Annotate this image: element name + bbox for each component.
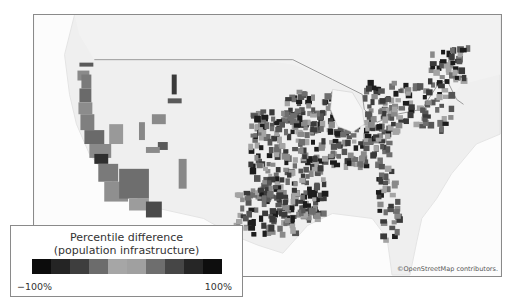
- colorbar-segment: [51, 259, 70, 274]
- colorbar-segment: [165, 259, 184, 274]
- colorbar-segment: [108, 259, 127, 274]
- colorbar-segment: [184, 259, 203, 274]
- colorbar-segment: [203, 259, 222, 274]
- colorbar-segment: [32, 259, 51, 274]
- legend-colorbar: [32, 259, 222, 274]
- legend-title-line2: (population infrastructure): [11, 244, 242, 257]
- colorbar-segment: [70, 259, 89, 274]
- legend-title-line1: Percentile difference: [11, 231, 242, 244]
- legend-max-label: 100%: [205, 281, 232, 292]
- colorbar-segment: [89, 259, 108, 274]
- colorbar-segment: [127, 259, 146, 274]
- colorbar-segment: [146, 259, 165, 274]
- map-attribution[interactable]: ©OpenStreetMap contributors.: [397, 265, 498, 273]
- map-legend: Percentile difference (population infras…: [10, 225, 243, 297]
- legend-title: Percentile difference (population infras…: [11, 231, 242, 257]
- legend-min-label: −100%: [17, 281, 52, 292]
